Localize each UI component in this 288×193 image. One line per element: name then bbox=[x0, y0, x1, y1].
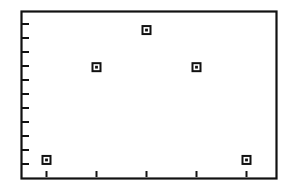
data-point-5 bbox=[242, 155, 252, 165]
data-point-3 bbox=[142, 25, 152, 35]
data-point-4 bbox=[192, 62, 202, 72]
chart-figure: Scatter plot with five square markers fo… bbox=[0, 0, 288, 193]
data-point-1 bbox=[42, 155, 52, 165]
scatter-plot-svg bbox=[0, 0, 288, 193]
data-point-2 bbox=[92, 62, 102, 72]
